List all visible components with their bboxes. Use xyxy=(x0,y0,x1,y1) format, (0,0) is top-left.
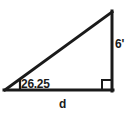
height-label: 6' xyxy=(115,37,124,50)
angle-label: 26.25 xyxy=(21,77,50,90)
base-label: d xyxy=(59,97,66,110)
triangle-diagram: 26.25 6' d xyxy=(0,0,129,113)
